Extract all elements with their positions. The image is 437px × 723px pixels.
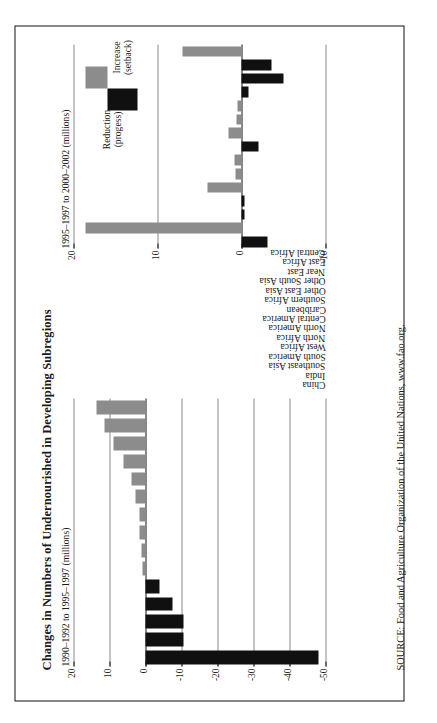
axis-tick-label: 0	[138, 668, 148, 673]
category-label-central-africa: Central Africa	[73, 252, 325, 261]
bar-slot	[73, 416, 325, 434]
bar	[85, 222, 241, 233]
bar	[96, 400, 145, 414]
bar	[141, 543, 145, 557]
category-label-southeast-asia: Southeast Asia	[73, 366, 325, 375]
bar	[207, 182, 241, 193]
bar	[145, 597, 172, 611]
panel-left-plot: -50-40-30-20-1001020	[73, 398, 325, 666]
axis-tick-label: -40	[282, 668, 292, 681]
axis-tick-label: 20	[66, 250, 76, 259]
category-labels: ChinaIndiaSoutheast AsiaSouth AmericaWes…	[73, 252, 325, 394]
bar-slot	[73, 180, 325, 194]
bar-slot	[73, 505, 325, 523]
bar	[145, 614, 183, 628]
bar-slot	[73, 194, 325, 208]
bar-slot	[73, 523, 325, 541]
category-label-north-africa: North Africa	[73, 337, 325, 346]
axis-tick-label: 10	[150, 250, 160, 259]
bar	[241, 209, 244, 220]
bar	[113, 436, 145, 450]
bar-slot	[73, 648, 325, 666]
category-label-china: China	[73, 385, 325, 394]
bar-slot	[73, 577, 325, 595]
bar-slot	[73, 234, 325, 248]
bar-slot	[73, 398, 325, 416]
axis-tick-label: 0	[234, 250, 244, 255]
bar	[145, 650, 318, 664]
category-label-india: India	[73, 375, 325, 384]
category-label-west-africa: West Africa	[73, 347, 325, 356]
bar-slot	[73, 153, 325, 167]
category-label-caribbean: Caribbean	[73, 309, 325, 318]
bar	[135, 489, 145, 503]
bar	[145, 579, 159, 593]
legend-swatch-increase	[85, 66, 107, 88]
bar	[228, 127, 241, 138]
bar-slot	[73, 612, 325, 630]
axis-tick-label: -30	[246, 668, 256, 681]
category-label-north-america: North America	[73, 328, 325, 337]
figure-title: Changes in Numbers of Undernourished in …	[39, 309, 54, 670]
bar	[237, 100, 241, 111]
bar-slot	[73, 595, 325, 613]
bar	[104, 418, 145, 432]
bar-slot	[73, 434, 325, 452]
bar-slot	[73, 452, 325, 470]
axis-tick-label: 20	[66, 668, 76, 677]
bar	[145, 632, 183, 646]
figure-stage: Changes in Numbers of Undernourished in …	[0, 0, 437, 723]
bar	[241, 59, 271, 70]
axis-tick-label: -10	[174, 668, 184, 681]
panel-right-ticks	[325, 44, 351, 248]
bar	[241, 86, 248, 97]
category-label-other-south-asia: Other South Asia	[73, 280, 325, 289]
category-label-east-africa: East Africa	[73, 261, 325, 270]
bar-slot	[73, 470, 325, 488]
category-label-south-america: South America	[73, 356, 325, 365]
legend-swatch-reduction	[107, 88, 137, 110]
bar	[241, 73, 283, 84]
category-label-near-east: Near East	[73, 271, 325, 280]
chart-panel-left: 1990–1992 to 1995–1997 (millions) -50-40…	[73, 398, 359, 666]
bar	[241, 141, 258, 152]
bar	[241, 236, 267, 247]
axis-tick-label: -50	[318, 668, 328, 681]
category-label-other-east-asia: Other East Asia	[73, 290, 325, 299]
bar-slot	[73, 207, 325, 221]
axis-tick-label: -20	[210, 668, 220, 681]
category-label-southern-africa: Southern Africa	[73, 299, 325, 308]
bar	[139, 507, 145, 521]
category-label-central-america: Central America	[73, 318, 325, 327]
chart-legend: Reduction (progess) Increase (setback)	[73, 32, 169, 144]
legend-label-increase: Increase (setback)	[111, 34, 132, 80]
bar	[234, 154, 241, 165]
bar	[241, 195, 244, 206]
bar-slot	[73, 221, 325, 235]
bar-slot	[73, 630, 325, 648]
bar	[131, 472, 145, 486]
panel-left-ticks	[325, 398, 351, 666]
axis-tick-label: -10	[318, 250, 328, 263]
bar	[182, 46, 241, 57]
bar	[123, 454, 145, 468]
bar	[142, 561, 145, 575]
bar-slot	[73, 487, 325, 505]
bar	[236, 114, 241, 125]
figure-frame: Changes in Numbers of Undernourished in …	[14, 25, 404, 701]
bar	[235, 168, 241, 179]
axis-tick-label: 10	[102, 668, 112, 677]
panel-left-bars	[73, 398, 325, 666]
category-label-text: Central Africa	[270, 247, 325, 257]
bar-slot	[73, 166, 325, 180]
legend-label-reduction: Reduction (progess)	[101, 108, 122, 150]
source-note: SOURCE: Food and Agriculture Organizatio…	[394, 324, 405, 670]
bar	[139, 525, 145, 539]
bar-slot	[73, 559, 325, 577]
bar-slot	[73, 541, 325, 559]
